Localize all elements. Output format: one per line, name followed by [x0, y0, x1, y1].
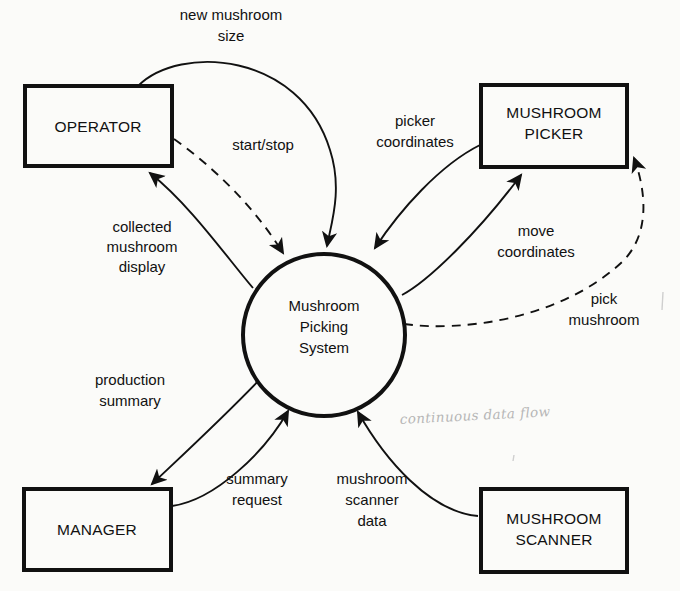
flow-label-collected-mushroom-display-line3: display	[119, 258, 166, 275]
flow-label-mushroom-scanner-data-line3: data	[357, 512, 387, 529]
flow-move-coordinates: move coordinates	[402, 175, 575, 295]
process-label-line3: System	[299, 339, 349, 356]
flow-label-mushroom-scanner-data-line2: scanner	[345, 491, 398, 508]
flow-label-mushroom-scanner-data-line1: mushroom	[337, 470, 408, 487]
entity-mushroom-picker[interactable]: MUSHROOM PICKER	[481, 85, 627, 167]
flow-summary-request: summary request	[172, 411, 288, 508]
flow-label-new-mushroom-size-line2: size	[218, 27, 245, 44]
flow-label-production-summary-line2: summary	[99, 392, 161, 409]
entity-mushroom-scanner[interactable]: MUSHROOM SCANNER	[481, 489, 627, 572]
flow-label-collected-mushroom-display-line1: collected	[112, 218, 171, 235]
flow-line-start-stop	[174, 139, 283, 253]
pencil-tick-mark	[662, 292, 663, 310]
flow-label-picker-coordinates-line1: picker	[395, 112, 435, 129]
entity-mushroom-scanner-label-line2: SCANNER	[515, 531, 592, 548]
diagram-canvas: new mushroom size start/stop collected m…	[0, 0, 680, 591]
flow-label-pick-mushroom-line1: pick	[591, 290, 618, 307]
process-label-line1: Mushroom	[289, 297, 360, 314]
flow-label-start-stop: start/stop	[232, 136, 294, 153]
flow-mushroom-scanner-data: mushroom scanner data	[337, 412, 478, 529]
flow-label-picker-coordinates-line2: coordinates	[376, 133, 454, 150]
flow-label-move-coordinates-line2: coordinates	[497, 243, 575, 260]
process-label-line2: Picking	[300, 318, 348, 335]
flow-production-summary: production summary	[95, 363, 275, 484]
flow-picker-coordinates: picker coordinates	[375, 112, 480, 248]
flow-label-production-summary-line1: production	[95, 371, 165, 388]
flow-label-collected-mushroom-display-line2: mushroom	[107, 238, 178, 255]
flow-collected-mushroom-display: collected mushroom display	[107, 173, 253, 288]
annotation-continuous-data-flow-text: continuous data flow	[399, 403, 551, 427]
entity-manager-label: MANAGER	[57, 521, 137, 538]
flow-label-summary-request-line2: request	[232, 491, 283, 508]
pencil-dot-mark	[513, 455, 514, 461]
flow-label-new-mushroom-size-line1: new mushroom	[180, 6, 283, 23]
process-mushroom-picking-system[interactable]: Mushroom Picking System	[243, 254, 405, 416]
process-circle	[243, 254, 405, 416]
flow-line-picker-coordinates	[375, 145, 480, 248]
entity-mushroom-scanner-label-line1: MUSHROOM	[506, 510, 601, 527]
flow-start-stop: start/stop	[174, 136, 294, 253]
entity-operator[interactable]: OPERATOR	[25, 86, 172, 166]
entity-manager[interactable]: MANAGER	[24, 489, 171, 570]
entity-mushroom-picker-label-line2: PICKER	[525, 125, 584, 142]
dataflow-diagram: new mushroom size start/stop collected m…	[0, 0, 680, 591]
entity-mushroom-picker-label-line1: MUSHROOM	[506, 104, 601, 121]
flow-label-summary-request-line1: summary	[226, 470, 288, 487]
flow-label-move-coordinates-line1: move	[518, 222, 555, 239]
entity-operator-label: OPERATOR	[54, 118, 141, 135]
flow-label-pick-mushroom-line2: mushroom	[569, 311, 640, 328]
